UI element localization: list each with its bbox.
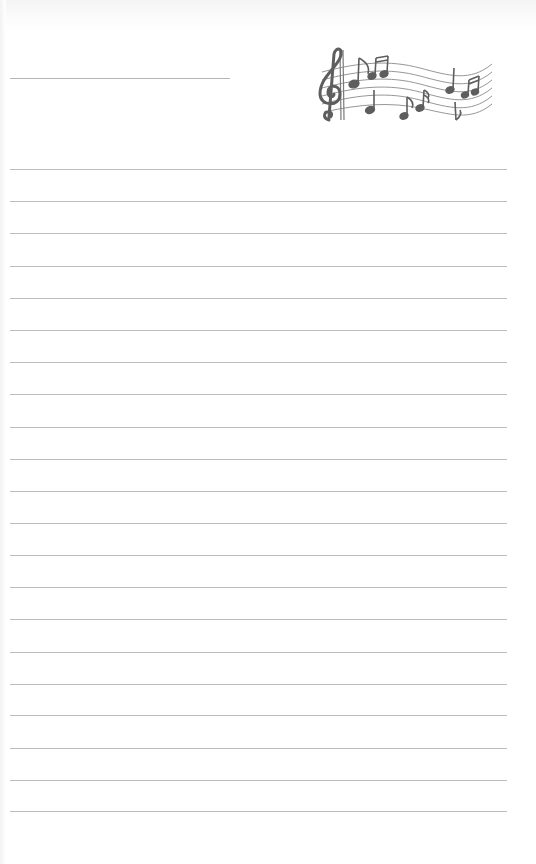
lined-paper-page	[0, 0, 536, 864]
ruled-line	[10, 459, 507, 460]
ruled-line	[10, 715, 507, 716]
ruled-line	[10, 362, 507, 363]
ruled-line	[10, 684, 507, 685]
scan-top-edge	[0, 0, 536, 30]
ruled-line	[10, 652, 507, 653]
ruled-line	[10, 169, 507, 170]
title-line	[10, 78, 230, 79]
ruled-line	[10, 619, 507, 620]
ruled-line	[10, 201, 507, 202]
ruled-line	[10, 587, 507, 588]
ruled-line	[10, 748, 507, 749]
ruled-line	[10, 780, 507, 781]
scan-left-shadow	[0, 0, 6, 864]
ruled-line	[10, 394, 507, 395]
ruled-line	[10, 523, 507, 524]
music-staff-with-treble-clef-icon	[310, 42, 500, 132]
ruled-line	[10, 491, 507, 492]
ruled-line	[10, 266, 507, 267]
ruled-line	[10, 298, 507, 299]
ruled-line	[10, 427, 507, 428]
ruled-line	[10, 811, 507, 812]
ruled-line	[10, 555, 507, 556]
ruled-line	[10, 330, 507, 331]
ruled-line	[10, 233, 507, 234]
